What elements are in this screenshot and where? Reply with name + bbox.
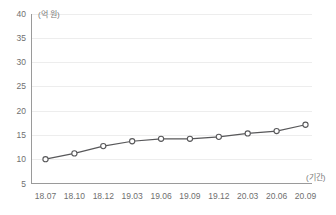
y-tick-label: 25 (17, 81, 27, 91)
x-tick-label: 20.09 (295, 191, 317, 201)
x-tick-label: 20.03 (237, 191, 259, 201)
series-line-amount (46, 125, 306, 159)
y-tick-label: 30 (17, 57, 27, 67)
y-tick-label: 35 (17, 33, 27, 43)
y-tick-label: 15 (17, 130, 27, 140)
data-point-marker (158, 136, 163, 141)
y-axis-label: (억 원) (38, 9, 60, 19)
x-tick-label: 19.12 (208, 191, 230, 201)
x-tick-label: 19.03 (122, 191, 144, 201)
data-point-marker (187, 136, 192, 141)
series-markers-group (43, 122, 308, 162)
chart-canvas: 403530252015105 18.0718.1018.1219.0319.0… (0, 0, 336, 215)
data-point-marker (101, 144, 106, 149)
data-point-marker (274, 128, 279, 133)
line-chart: 403530252015105 18.0718.1018.1219.0319.0… (0, 0, 336, 215)
data-point-marker (303, 122, 308, 127)
y-tick-label: 40 (17, 9, 27, 19)
data-point-marker (245, 131, 250, 136)
y-tick-labels-group: 403530252015105 (17, 9, 27, 189)
y-tick-label: 5 (21, 179, 26, 189)
x-tick-label: 18.07 (35, 191, 57, 201)
x-tick-labels-group: 18.0718.1018.1219.0319.0619.0919.1220.03… (35, 191, 317, 201)
y-tick-label: 10 (17, 154, 27, 164)
y-tick-label: 20 (17, 106, 27, 116)
gridlines-group (32, 15, 312, 160)
x-tick-label: 19.09 (179, 191, 201, 201)
data-point-marker (216, 134, 221, 139)
data-point-marker (43, 157, 48, 162)
x-tick-label: 19.06 (150, 191, 172, 201)
x-tick-label: 20.06 (266, 191, 288, 201)
data-point-marker (130, 139, 135, 144)
x-axis-label: (기간) (306, 172, 326, 182)
data-point-marker (72, 151, 77, 156)
x-tick-label: 18.10 (64, 191, 86, 201)
x-tick-label: 18.12 (93, 191, 115, 201)
